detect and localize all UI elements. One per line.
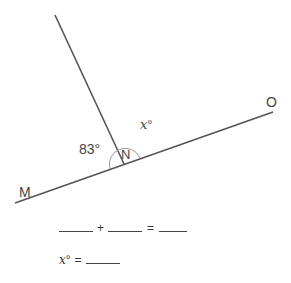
unknown-angle-label: x°	[140, 118, 153, 131]
plus-sign: +	[97, 221, 104, 235]
known-angle-label: 83°	[79, 142, 100, 156]
angle-diagram	[0, 0, 291, 283]
answer-row: x° =	[59, 253, 120, 267]
unknown-angle-degree: °	[147, 117, 152, 132]
answer-degree: °	[66, 253, 71, 267]
answer-var: x	[59, 253, 66, 267]
blank-3[interactable]	[159, 230, 187, 232]
label-O: O	[266, 95, 277, 109]
blank-1[interactable]	[59, 230, 93, 232]
blank-2[interactable]	[108, 230, 142, 232]
label-M: M	[19, 185, 31, 199]
answer-equals: =	[75, 253, 82, 267]
equation-row: + =	[59, 221, 187, 235]
answer-blank[interactable]	[86, 262, 120, 264]
label-N: N	[121, 148, 130, 161]
equals-sign: =	[147, 221, 154, 235]
